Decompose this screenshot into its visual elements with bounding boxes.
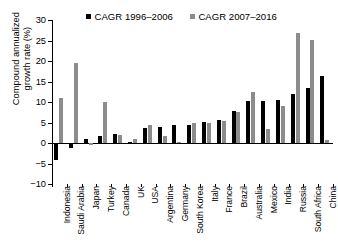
bar-cagr-2007-2016 [148, 125, 152, 143]
bar-group [83, 20, 98, 184]
bar-cagr-1996-2006 [202, 122, 206, 143]
bar-cagr-2007-2016 [251, 92, 255, 143]
legend-swatch-black [86, 14, 91, 19]
bar-cagr-1996-2006 [187, 125, 191, 143]
x-axis-label-uk: UK [137, 186, 146, 198]
y-tick-label-5: 5 [41, 118, 46, 128]
bar-group [127, 20, 142, 184]
y-tick-label-25: 25 [36, 36, 46, 46]
bar-group [230, 20, 245, 184]
x-axis-label-canada: Canada [122, 186, 131, 216]
bar-cagr-1996-2006 [217, 120, 221, 143]
bar-group [260, 20, 275, 184]
x-axis-label-indonesia: Indonesia [63, 186, 72, 223]
x-axis-label-saudi-arabia: Saudi Arabia [77, 186, 86, 235]
x-axis-label-usa: USA [151, 186, 160, 204]
y-axis-title: Compound annualized growth rate (%) [11, 0, 32, 129]
bar-cagr-1996-2006 [98, 136, 102, 143]
x-axis-label-turkey: Turkey [107, 186, 116, 212]
bar-group [304, 20, 319, 184]
bar-cagr-2007-2016 [89, 143, 93, 145]
bar-group [201, 20, 216, 184]
bar-group [68, 20, 83, 184]
bar-cagr-2007-2016 [236, 112, 240, 143]
plot-area: −10−5051015202530 [52, 20, 333, 184]
y-tick-20 [48, 61, 52, 62]
bar-cagr-2007-2016 [192, 123, 196, 144]
x-axis-label-india: India [284, 186, 293, 205]
y-tick-5 [48, 123, 52, 124]
bar-cagr-1996-2006 [158, 127, 162, 143]
x-axis-label-france: France [225, 186, 234, 213]
x-axis-label-russia: Russia [299, 186, 308, 212]
x-axis-label-mexico: Mexico [270, 186, 279, 213]
bar-cagr-1996-2006 [84, 139, 88, 143]
x-axis-label-south-korea: South Korea [196, 186, 205, 234]
bar-cagr-1996-2006 [246, 101, 250, 143]
y-tick-15 [48, 82, 52, 83]
y-tick-25 [48, 41, 52, 42]
bar-group [186, 20, 201, 184]
bar-group [319, 20, 334, 184]
bar-group [171, 20, 186, 184]
y-tick-label-15: 15 [36, 77, 46, 87]
bar-group [142, 20, 157, 184]
bar-group [97, 20, 112, 184]
bar-cagr-1996-2006 [306, 88, 310, 143]
bar-cagr-1996-2006 [291, 94, 295, 143]
bar-cagr-1996-2006 [172, 125, 176, 143]
y-tick-label-10: 10 [36, 97, 46, 107]
y-tick-10 [48, 102, 52, 103]
bar-cagr-1996-2006 [143, 128, 147, 143]
bar-cagr-1996-2006 [69, 143, 73, 148]
bar-group [112, 20, 127, 184]
y-tick-30 [48, 20, 52, 21]
bar-cagr-2007-2016 [133, 139, 137, 143]
x-axis-label-south-africa: South Africa [314, 186, 323, 232]
y-axis-title-text: Compound annualized growth rate (%) [11, 12, 32, 105]
x-axis-label-china: China [329, 186, 338, 208]
bar-cagr-1996-2006 [276, 100, 280, 143]
bar-cagr-2007-2016 [59, 98, 63, 143]
bar-cagr-2007-2016 [281, 106, 285, 143]
y-tick-label-30: 30 [36, 15, 46, 25]
bar-group [245, 20, 260, 184]
bar-cagr-2007-2016 [296, 33, 300, 143]
x-axis-label-argentina: Argentina [166, 186, 175, 223]
bar-cagr-2007-2016 [325, 140, 329, 143]
x-axis-label-brazil: Brazil [240, 186, 249, 208]
bar-group [53, 20, 68, 184]
bar-cagr-2007-2016 [103, 102, 107, 143]
y-tick-label-20: 20 [36, 56, 46, 66]
bar-cagr-2007-2016 [310, 40, 314, 143]
bar-group [216, 20, 231, 184]
x-axis-label-japan: Japan [92, 186, 101, 209]
bar-cagr-1996-2006 [320, 76, 324, 143]
bar-cagr-1996-2006 [113, 134, 117, 143]
x-axis-label-germany: Germany [181, 186, 190, 221]
bar-cagr-1996-2006 [54, 143, 58, 160]
bar-group [290, 20, 305, 184]
x-axis-category-labels: IndonesiaSaudi ArabiaJapanTurkeyCanadaUK… [52, 186, 333, 252]
bar-cagr-1996-2006 [128, 142, 132, 143]
bar-cagr-2007-2016 [74, 63, 78, 143]
bar-series-container [53, 20, 333, 184]
legend-swatch-gray [190, 14, 195, 19]
bar-cagr-2007-2016 [118, 135, 122, 143]
bar-cagr-2007-2016 [266, 129, 270, 143]
y-tick-label-0: 0 [41, 138, 46, 148]
y-tick-label--10: −10 [30, 179, 46, 189]
y-tick--5 [48, 164, 52, 165]
y-tick-label--5: −5 [35, 159, 46, 169]
x-axis-label-australia: Australia [255, 186, 264, 219]
x-axis-label-italy: Italy [211, 186, 220, 202]
bar-cagr-2007-2016 [163, 136, 167, 143]
bar-cagr-1996-2006 [261, 101, 265, 143]
bar-cagr-2007-2016 [177, 142, 181, 143]
bar-cagr-2007-2016 [207, 123, 211, 143]
bar-group [157, 20, 172, 184]
bar-group [275, 20, 290, 184]
bar-cagr-2007-2016 [222, 121, 226, 143]
bar-cagr-1996-2006 [232, 111, 236, 143]
